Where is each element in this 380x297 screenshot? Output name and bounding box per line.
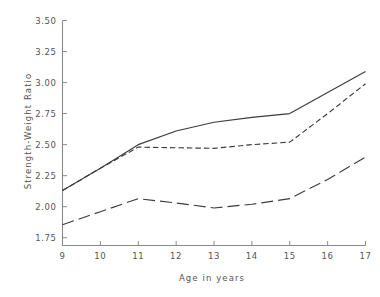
y-tick-label: 2.50 xyxy=(35,140,56,150)
x-axis-title: Age in years xyxy=(179,273,245,283)
x-tick-label: 15 xyxy=(284,251,296,261)
x-axis-ticks xyxy=(63,241,366,246)
data-series-group xyxy=(63,71,366,224)
x-axis-tick-labels: 91011121314151617 xyxy=(59,251,371,261)
y-tick-label: 3.00 xyxy=(35,78,56,88)
x-tick-label: 14 xyxy=(246,251,258,261)
x-tick-label: 13 xyxy=(208,251,220,261)
x-tick-label: 9 xyxy=(59,251,65,261)
y-tick-label: 1.75 xyxy=(35,233,56,243)
x-tick-label: 16 xyxy=(322,251,334,261)
y-axis-tick-labels: 1.752.002.252.502.753.003.253.50 xyxy=(35,16,56,243)
x-tick-label: 10 xyxy=(94,251,106,261)
y-axis-title: Strength-Weight Ratio xyxy=(23,73,33,190)
x-tick-label: 17 xyxy=(359,251,371,261)
y-tick-label: 2.25 xyxy=(35,171,56,181)
y-tick-label: 3.50 xyxy=(35,16,56,26)
axis-lines xyxy=(63,21,366,246)
chart-figure: 1.752.002.252.502.753.003.253.50 9101112… xyxy=(0,0,380,297)
series-middle-short-dash xyxy=(63,84,366,191)
series-lower-long-dash xyxy=(63,157,366,225)
y-tick-label: 2.75 xyxy=(35,109,56,119)
x-tick-label: 11 xyxy=(132,251,144,261)
axis-frame xyxy=(63,21,366,246)
y-tick-label: 3.25 xyxy=(35,47,56,57)
x-tick-label: 12 xyxy=(170,251,182,261)
line-chart: 1.752.002.252.502.753.003.253.50 9101112… xyxy=(0,0,380,297)
y-axis-ticks xyxy=(63,21,68,238)
y-tick-label: 2.00 xyxy=(35,202,56,212)
series-upper-solid xyxy=(63,71,366,190)
